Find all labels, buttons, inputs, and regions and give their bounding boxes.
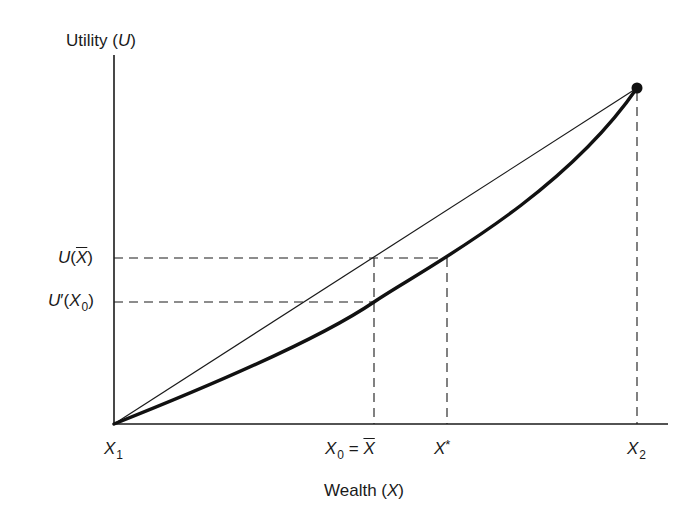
paren: )	[87, 248, 93, 267]
x-symbol: X	[69, 291, 80, 310]
subscript: 1	[116, 448, 123, 462]
u-symbol: U	[58, 248, 70, 267]
superscript-star: *	[445, 437, 450, 452]
x-symbol: X	[627, 439, 638, 458]
paren: )	[398, 481, 404, 500]
y-axis-title: Utility (U)	[66, 32, 136, 49]
u-symbol: U	[48, 291, 60, 310]
x-tick-x0-xbar: X0 = X	[325, 440, 375, 457]
y-tick-uprime-x0: U′(X0)	[48, 292, 94, 309]
endpoint-dot	[632, 83, 643, 94]
u-symbol: U	[118, 31, 130, 50]
x-axis-title: Wealth (X)	[324, 482, 404, 499]
y-axis-title-text: Utility	[66, 31, 108, 50]
x-symbol: X	[387, 481, 398, 500]
x-symbol: X	[104, 439, 115, 458]
paren: )	[130, 31, 136, 50]
x-bar-symbol: X	[363, 439, 374, 458]
subscript: 2	[639, 448, 646, 462]
x-tick-x2: X2	[627, 440, 646, 457]
x-tick-x1: X1	[104, 440, 123, 457]
paren: )	[88, 291, 94, 310]
x-bar-symbol: X	[76, 248, 87, 267]
x-axis-title-text: Wealth	[324, 481, 377, 500]
y-tick-u-xbar: U(X)	[58, 249, 93, 266]
x-tick-xstar: X*	[434, 440, 450, 457]
x-symbol: X	[434, 439, 445, 458]
x-symbol: X	[325, 439, 336, 458]
subscript: 0	[81, 300, 88, 314]
subscript: 0	[337, 448, 344, 462]
equals-sign: =	[349, 439, 359, 458]
chord-line	[114, 88, 637, 424]
